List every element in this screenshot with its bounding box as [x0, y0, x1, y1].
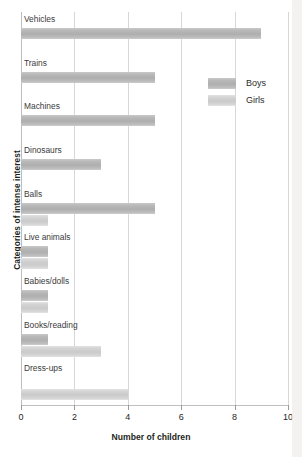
category-label: Dinosaurs: [24, 145, 62, 156]
category-label: Dress-ups: [24, 363, 62, 374]
category-label: Live animals: [24, 232, 71, 243]
category-group: Vehicles: [21, 12, 288, 56]
x-tick-label: 4: [116, 412, 140, 422]
bar-boys: [21, 115, 155, 126]
legend-swatch-girls: [208, 95, 236, 106]
bar-boys: [21, 28, 261, 39]
bar-girls: [21, 346, 101, 357]
legend-swatch-boys: [208, 78, 236, 89]
category-group: Books/reading: [21, 318, 288, 362]
category-group: Balls: [21, 187, 288, 231]
category-label: Trains: [24, 58, 47, 69]
x-tick: [21, 405, 22, 410]
legend-label-girls: Girls: [246, 93, 265, 107]
x-tick: [74, 405, 75, 410]
bar-boys: [21, 246, 48, 257]
legend-label-boys: Boys: [246, 76, 266, 90]
bar-girls: [21, 302, 48, 313]
category-label: Machines: [24, 101, 60, 112]
category-group: Live animals: [21, 230, 288, 274]
bar-boys: [21, 203, 155, 214]
x-tick: [181, 405, 182, 410]
gridline: [288, 12, 289, 405]
x-tick: [128, 405, 129, 410]
bar-chart: Categories of intense interest VehiclesT…: [0, 0, 302, 457]
category-group: Dinosaurs: [21, 143, 288, 187]
x-tick: [288, 405, 289, 410]
bar-boys: [21, 290, 48, 301]
bar-girls: [21, 389, 128, 400]
bar-girls: [21, 258, 48, 269]
x-tick-label: 6: [169, 412, 193, 422]
category-group: Dress-ups: [21, 361, 288, 405]
x-tick-label: 8: [223, 412, 247, 422]
x-axis-line: [21, 405, 289, 406]
category-group: Babies/dolls: [21, 274, 288, 318]
category-label: Babies/dolls: [24, 276, 69, 287]
bar-boys: [21, 72, 155, 83]
bar-girls: [21, 215, 48, 226]
bar-boys: [21, 159, 101, 170]
x-axis-title: Number of children: [0, 432, 302, 442]
category-label: Books/reading: [24, 320, 78, 331]
x-tick-label: 0: [9, 412, 33, 422]
x-tick: [235, 405, 236, 410]
plot-area: VehiclesTrainsMachinesDinosaursBallsLive…: [21, 12, 288, 405]
category-label: Vehicles: [24, 14, 55, 25]
x-tick-label: 2: [62, 412, 86, 422]
category-label: Balls: [24, 189, 42, 200]
scan-edge-artifact: [292, 0, 302, 457]
bar-boys: [21, 334, 48, 345]
